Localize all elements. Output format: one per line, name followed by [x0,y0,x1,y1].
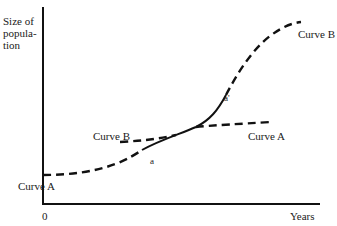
curve-a-dashed-start [43,150,142,175]
point-a-prime-label: a' [224,92,230,104]
curve-solid-segment [142,95,226,150]
y-axis-label: Size of popula-tion [3,15,43,51]
curve-a-dashed-end [196,122,270,127]
point-a-label: a [150,155,154,167]
curve-b-dashed-end [226,22,301,95]
curve-a-label-right: Curve A [248,130,285,142]
population-growth-diagram [0,0,337,226]
curve-b-label-right: Curve B [298,28,335,40]
origin-label: 0 [42,210,48,222]
curve-b-label-left: Curve B [93,130,130,142]
x-axis-label: Years [290,210,315,222]
curve-a-label-left: Curve A [18,180,55,192]
